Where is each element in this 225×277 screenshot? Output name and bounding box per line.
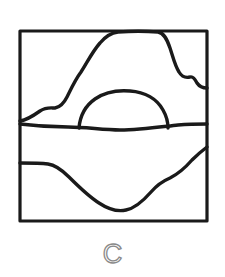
figure-caption-letter: C	[0, 238, 225, 270]
drawing-background	[0, 0, 225, 277]
figure-root: C	[0, 0, 225, 277]
line-drawing-canvas	[0, 0, 225, 277]
